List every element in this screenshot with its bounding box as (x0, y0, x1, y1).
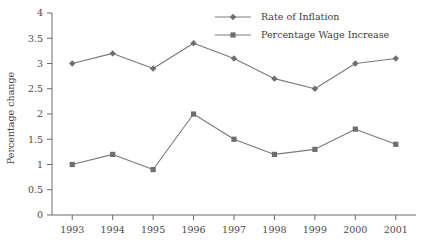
y-axis-tick-label: 4 (37, 7, 43, 18)
legend-marker (230, 14, 236, 20)
x-axis-tick-label: 1995 (141, 224, 165, 235)
data-point (69, 60, 75, 66)
x-axis: 199319941995199619971998199920002001 (52, 215, 416, 235)
x-axis-tick-label: 1997 (222, 224, 246, 235)
y-axis-tick-label: 1.5 (28, 134, 43, 145)
x-axis-tick-label: 1999 (303, 224, 327, 235)
legend-item: Rate of Inflation (215, 11, 339, 22)
y-axis-tick-label: 2.5 (28, 83, 43, 94)
x-axis-tick-label: 2000 (343, 224, 367, 235)
data-point (352, 60, 358, 66)
y-axis: 00.511.522.533.54 (28, 7, 52, 220)
line-chart: 00.511.522.533.54 1993199419951996199719… (0, 0, 428, 243)
data-point (109, 50, 115, 56)
data-point (70, 162, 75, 167)
y-axis-tick-label: 0.5 (28, 184, 43, 195)
legend-item: Percentage Wage Increase (215, 29, 390, 40)
legend-label: Percentage Wage Increase (261, 29, 390, 40)
data-point (231, 137, 236, 142)
data-point (272, 152, 277, 157)
data-point (393, 55, 399, 61)
y-axis-tick-label: 2 (37, 108, 43, 119)
y-axis-title: Percentage change (5, 71, 16, 164)
y-axis-tick-label: 1 (37, 159, 43, 170)
data-point (271, 75, 277, 81)
chart-container: 00.511.522.533.54 1993199419951996199719… (0, 0, 428, 243)
x-axis-tick-label: 1994 (101, 224, 125, 235)
legend-marker (230, 32, 235, 37)
data-point (190, 40, 196, 46)
y-axis-tick-label: 3 (37, 58, 43, 69)
series-path (72, 43, 396, 88)
data-point (312, 86, 318, 92)
x-axis-tick-label: 2001 (384, 224, 408, 235)
data-point (353, 127, 358, 132)
data-point (191, 111, 196, 116)
data-point (312, 147, 317, 152)
series-1 (69, 40, 399, 92)
data-point (151, 167, 156, 172)
data-point (393, 142, 398, 147)
x-axis-tick-label: 1998 (262, 224, 286, 235)
data-point (150, 65, 156, 71)
y-axis-tick-label: 3.5 (28, 33, 43, 44)
data-point (110, 152, 115, 157)
chart-legend: Rate of InflationPercentage Wage Increas… (215, 11, 390, 40)
x-axis-tick-label: 1993 (60, 224, 84, 235)
series-layer (69, 40, 399, 172)
data-point (231, 55, 237, 61)
series-2 (70, 111, 399, 172)
legend-label: Rate of Inflation (261, 11, 339, 22)
x-axis-tick-label: 1996 (181, 224, 205, 235)
y-axis-tick-label: 0 (37, 209, 43, 220)
